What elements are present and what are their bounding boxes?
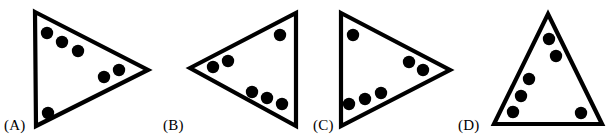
answer-option-c[interactable]: (C) bbox=[0, 0, 615, 138]
option-label-a: (A) bbox=[4, 118, 25, 133]
triangle-outline bbox=[35, 12, 148, 126]
dot bbox=[343, 98, 355, 110]
answer-option-b[interactable]: (B) bbox=[0, 0, 615, 138]
option-label-d: (D) bbox=[458, 118, 479, 133]
option-label-c: (C) bbox=[313, 118, 334, 133]
dot bbox=[276, 98, 288, 110]
dot bbox=[41, 27, 53, 39]
dot bbox=[375, 87, 387, 99]
triangle-figure-a bbox=[0, 0, 615, 138]
dot bbox=[98, 71, 110, 83]
dot bbox=[550, 50, 562, 62]
triangle-outline bbox=[190, 13, 296, 126]
triangle-figure-b bbox=[0, 0, 615, 138]
dot bbox=[507, 106, 519, 118]
dot bbox=[543, 33, 555, 45]
dot bbox=[42, 107, 54, 119]
answer-option-d[interactable]: (D) bbox=[0, 0, 615, 138]
dot bbox=[274, 29, 286, 41]
answer-options-sheet: (A)(B)(C)(D) bbox=[0, 0, 615, 138]
dot bbox=[347, 29, 359, 41]
dot bbox=[113, 64, 125, 76]
dot bbox=[261, 92, 273, 104]
answer-option-a[interactable]: (A) bbox=[0, 0, 615, 138]
dot bbox=[56, 36, 68, 48]
dot bbox=[246, 86, 258, 98]
dot bbox=[72, 45, 84, 57]
triangle-figure-d bbox=[0, 0, 615, 138]
dot bbox=[359, 93, 371, 105]
dot bbox=[575, 107, 587, 119]
dot bbox=[417, 64, 429, 76]
dot bbox=[515, 90, 527, 102]
dot bbox=[403, 56, 415, 68]
option-label-b: (B) bbox=[163, 118, 184, 133]
dot bbox=[222, 55, 234, 67]
triangle-figure-c bbox=[0, 0, 615, 138]
triangle-outline bbox=[494, 14, 602, 124]
dot bbox=[523, 73, 535, 85]
triangle-outline bbox=[341, 13, 450, 126]
dot bbox=[207, 61, 219, 73]
